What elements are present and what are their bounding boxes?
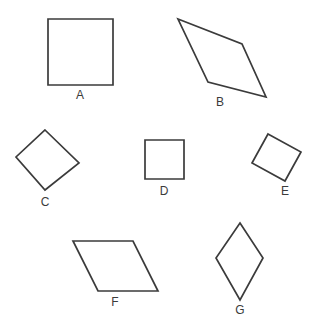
shape-d	[145, 140, 184, 179]
shape-c	[16, 130, 79, 190]
shape-f	[73, 241, 158, 291]
shape-a	[48, 19, 113, 85]
shapes-canvas: ABCDEFG	[0, 0, 318, 335]
shape-label-c: C	[41, 195, 50, 209]
shapes-figure: ABCDEFG	[0, 0, 318, 335]
shape-label-e: E	[281, 184, 289, 198]
shape-label-a: A	[76, 88, 84, 102]
shape-label-d: D	[160, 184, 169, 198]
shape-e	[252, 134, 301, 181]
shape-label-f: F	[111, 295, 118, 309]
shape-label-b: B	[216, 95, 224, 109]
shape-label-g: G	[235, 303, 244, 317]
shape-b	[178, 19, 266, 97]
shape-g	[216, 223, 263, 300]
